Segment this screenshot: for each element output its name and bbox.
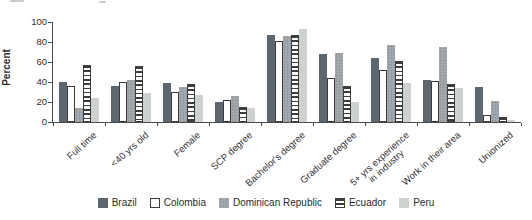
bar-group <box>53 22 105 122</box>
bar <box>163 83 171 122</box>
x-tick-mark <box>209 123 210 126</box>
x-axis-category-label: Bachelor's degree <box>243 130 306 188</box>
bar <box>447 84 455 122</box>
x-tick-mark <box>157 123 158 126</box>
x-axis-category-label: <40 yrs old <box>109 130 150 169</box>
bar <box>439 47 447 122</box>
bar <box>239 107 247 122</box>
x-tick-mark <box>53 123 54 126</box>
legend-label: Ecuador <box>349 197 386 208</box>
bar <box>387 45 395 122</box>
legend-item: Colombia <box>150 197 206 208</box>
legend-swatch <box>335 198 345 208</box>
bar <box>171 92 179 122</box>
cropped-caption-artifact <box>10 0 24 2</box>
bar <box>507 120 515 122</box>
bar <box>343 86 351 122</box>
bar <box>215 102 223 122</box>
bar-group <box>365 22 417 122</box>
bar <box>127 80 135 122</box>
legend-swatch <box>98 198 108 208</box>
x-axis-category-label: Full time <box>65 130 98 161</box>
legend-item: Ecuador <box>335 197 386 208</box>
bar <box>75 108 83 122</box>
bar <box>195 95 203 122</box>
bar <box>59 82 67 122</box>
bar <box>395 61 403 122</box>
bar-group <box>469 22 521 122</box>
bar <box>83 65 91 122</box>
bar <box>67 86 75 122</box>
chart-legend: BrazilColombiaDominican RepublicEcuadorP… <box>0 197 532 208</box>
bar <box>187 84 195 122</box>
bar <box>179 87 187 122</box>
y-tick-label: 0 <box>21 117 47 127</box>
bar <box>275 41 283 122</box>
legend-item: Dominican Republic <box>219 197 322 208</box>
bar-group <box>157 22 209 122</box>
y-tick-mark <box>48 42 52 43</box>
y-tick-mark <box>48 82 52 83</box>
x-axis-category-label: Female <box>172 130 202 159</box>
bar-chart-figure: Percent 100806040200 Full time<40 yrs ol… <box>0 0 532 220</box>
x-tick-mark <box>521 123 522 126</box>
cropped-caption-artifact <box>99 1 106 3</box>
bar-group <box>209 22 261 122</box>
bar <box>379 70 387 122</box>
y-tick-mark <box>48 62 52 63</box>
y-tick-mark <box>48 102 52 103</box>
y-tick-mark <box>48 22 52 23</box>
bar <box>403 83 411 122</box>
bar <box>431 81 439 122</box>
bar <box>223 100 231 122</box>
x-axis-category-label: SCP degree <box>210 130 255 172</box>
bar <box>483 115 491 122</box>
bar <box>143 93 151 122</box>
bar <box>267 35 275 122</box>
y-tick-label: 20 <box>21 97 47 107</box>
bar <box>491 101 499 122</box>
legend-swatch <box>219 198 229 208</box>
x-axis-category-label: Unionized <box>477 130 515 166</box>
legend-label: Peru <box>413 197 434 208</box>
bar <box>247 108 255 122</box>
bar <box>335 53 343 122</box>
bar <box>231 96 239 122</box>
bar <box>371 58 379 122</box>
bar <box>91 98 99 122</box>
x-tick-mark <box>365 123 366 126</box>
bar <box>423 80 431 122</box>
bar-group <box>313 22 365 122</box>
bar <box>119 82 127 122</box>
legend-item: Peru <box>399 197 434 208</box>
legend-label: Dominican Republic <box>233 197 322 208</box>
bar-group <box>261 22 313 122</box>
plot-area <box>52 22 521 123</box>
bar <box>455 88 463 122</box>
bar-group <box>417 22 469 122</box>
legend-swatch <box>150 198 160 208</box>
bar <box>135 66 143 122</box>
x-tick-mark <box>313 123 314 126</box>
bar-group <box>105 22 157 122</box>
y-tick-mark <box>48 122 52 123</box>
x-tick-mark <box>261 123 262 126</box>
x-tick-mark <box>417 123 418 126</box>
legend-label: Colombia <box>164 197 206 208</box>
legend-item: Brazil <box>98 197 137 208</box>
bar <box>327 78 335 122</box>
x-tick-mark <box>105 123 106 126</box>
y-axis-title: Percent <box>1 36 12 100</box>
y-tick-label: 60 <box>21 57 47 67</box>
bar <box>111 86 119 122</box>
bar <box>283 36 291 122</box>
bar <box>499 117 507 122</box>
bar <box>319 54 327 122</box>
y-tick-label: 100 <box>21 17 47 27</box>
bar <box>351 102 359 122</box>
bar <box>299 29 307 122</box>
bar <box>291 35 299 122</box>
x-tick-mark <box>469 123 470 126</box>
y-tick-label: 40 <box>21 77 47 87</box>
y-tick-label: 80 <box>21 37 47 47</box>
